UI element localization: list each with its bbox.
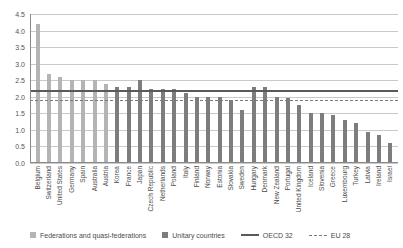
bar-slot (203, 14, 214, 163)
chart-container: 0.00.51.01.52.02.53.03.54.04.5 BelgiumSw… (0, 0, 403, 248)
x-label-slot: Sweden (237, 165, 248, 223)
x-label-slot: Luxembourg (339, 165, 350, 223)
bar (331, 115, 335, 163)
bar-slot (373, 14, 384, 163)
bar (240, 110, 244, 163)
bar-slot (316, 14, 327, 163)
x-axis-tick-label: Portugal (285, 166, 292, 190)
x-axis-tick-label: Germany (69, 166, 76, 193)
x-label-slot: Ireland (373, 165, 384, 223)
bar (354, 123, 358, 163)
bar-slot (385, 14, 396, 163)
bar-slot (180, 14, 191, 163)
x-axis-tick-label: Poland (171, 166, 178, 186)
bar (104, 84, 108, 163)
y-axis-tick-label: 1.5 (15, 110, 25, 117)
bar-slot (89, 14, 100, 163)
reference-line-eu-28 (30, 100, 398, 101)
x-axis-tick-label: Luxembourg (342, 166, 349, 202)
x-axis-tick-label: Australia (91, 166, 98, 191)
x-label-slot: Italy (180, 165, 191, 223)
x-axis-tick-label: Austria (103, 166, 110, 186)
x-label-slot: United States (55, 165, 66, 223)
bar-series (30, 14, 398, 163)
y-axis-tick-label: 1.0 (15, 126, 25, 133)
x-label-slot: Hungary (248, 165, 259, 223)
bar (377, 135, 381, 163)
y-axis-line (30, 14, 31, 163)
legend-item-federations: Federations and quasi-federations (30, 232, 146, 239)
bar (286, 98, 290, 163)
bar-slot (237, 14, 248, 163)
x-axis-tick-label: Netherlands (160, 166, 167, 201)
plot-area (30, 14, 398, 163)
x-label-slot: Spain (78, 165, 89, 223)
legend-label-federations: Federations and quasi-federations (40, 232, 146, 239)
x-axis-tick-label: Belgium (34, 166, 41, 189)
y-axis-tick-label: 4.5 (15, 11, 25, 18)
bar-slot (328, 14, 339, 163)
x-label-slot: Slovakia (225, 165, 236, 223)
bar-slot (134, 14, 145, 163)
bar (388, 143, 392, 163)
bar-slot (146, 14, 157, 163)
x-label-slot: Korea (112, 165, 123, 223)
x-label-slot: Netherlands (157, 165, 168, 223)
x-label-slot: Denmark (260, 165, 271, 223)
bar-slot (66, 14, 77, 163)
x-label-slot: Estonia (214, 165, 225, 223)
x-axis-line (30, 162, 398, 163)
bar-slot (55, 14, 66, 163)
x-label-slot: Israel (385, 165, 396, 223)
bar (184, 93, 188, 163)
x-axis-tick-label: Spain (80, 166, 87, 183)
chart-legend: Federations and quasi-federations Unitar… (30, 228, 398, 242)
x-label-slot: France (123, 165, 134, 223)
x-axis-tick-label: Czech Republic (148, 166, 155, 212)
bar-slot (248, 14, 259, 163)
bar-slot (157, 14, 168, 163)
legend-swatch-unitary (162, 232, 168, 238)
bar (36, 24, 40, 163)
x-axis-tick-label: Iceland (307, 166, 314, 187)
gridline (30, 163, 398, 164)
x-axis-tick-label: Switzerland (46, 166, 53, 200)
x-label-slot: Austria (100, 165, 111, 223)
bar (70, 80, 74, 163)
x-label-slot: New Zealand (271, 165, 282, 223)
y-axis-tick-label: 4.0 (15, 27, 25, 34)
bar-slot (305, 14, 316, 163)
x-label-slot: Australia (89, 165, 100, 223)
bar (115, 87, 119, 163)
x-label-slot: Slovenia (316, 165, 327, 223)
x-label-slot: Turkey (351, 165, 362, 223)
y-axis-tick-labels: 0.00.51.01.52.02.53.03.54.04.5 (0, 14, 28, 163)
bar-slot (225, 14, 236, 163)
y-axis-tick-label: 0.5 (15, 143, 25, 150)
x-axis-tick-label: Denmark (262, 166, 269, 192)
x-axis-tick-label: Slovakia (228, 166, 235, 191)
bar-slot (362, 14, 373, 163)
x-label-slot: Czech Republic (146, 165, 157, 223)
bar-slot (282, 14, 293, 163)
x-axis-tick-label: Italy (182, 166, 189, 178)
bar (195, 97, 199, 163)
bar (127, 87, 131, 163)
y-axis-tick-label: 3.5 (15, 44, 25, 51)
x-axis-tick-label: France (125, 166, 132, 186)
x-label-slot: Norway (203, 165, 214, 223)
bar (138, 80, 142, 163)
bar (366, 132, 370, 163)
bar-slot (78, 14, 89, 163)
bar (275, 97, 279, 163)
legend-item-unitary: Unitary countries (162, 232, 225, 239)
legend-label-unitary: Unitary countries (172, 232, 225, 239)
bar (93, 80, 97, 163)
bar (320, 113, 324, 163)
y-axis-tick-label: 0.0 (15, 160, 25, 167)
bar (343, 120, 347, 163)
bar (263, 87, 267, 163)
x-label-slot: Belgium (32, 165, 43, 223)
bar-slot (32, 14, 43, 163)
bar (218, 97, 222, 163)
